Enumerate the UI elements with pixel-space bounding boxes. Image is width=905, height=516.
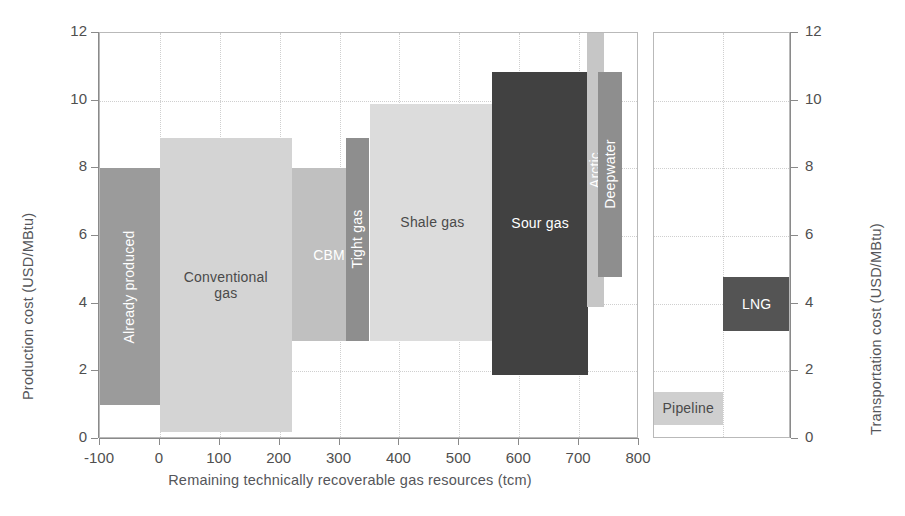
- y-axis-tick-label-left: 6: [53, 225, 87, 242]
- y-axis-tick-label-right: 2: [805, 360, 835, 377]
- gridline-horizontal: [654, 168, 789, 169]
- x-axis-title: Remaining technically recoverable gas re…: [0, 472, 700, 488]
- y-axis-tick-right: [791, 32, 798, 33]
- y-axis-tick-left: [91, 32, 98, 33]
- bar-label: Conventional gas: [184, 269, 268, 301]
- gridline-horizontal: [654, 371, 789, 372]
- y-axis-tick-label-right: 0: [805, 428, 835, 445]
- y-axis-tick-label-right: 10: [805, 90, 835, 107]
- y-axis-tick-label-left: 4: [53, 293, 87, 310]
- bar-already-produced[interactable]: Already produced: [100, 168, 160, 405]
- y-axis-tick-left: [91, 370, 98, 371]
- y-axis-tick-right: [791, 303, 798, 304]
- y-axis-tick-right: [791, 370, 798, 371]
- y-axis-tick-right: [791, 235, 798, 236]
- x-axis-tick-label: 800: [603, 449, 673, 466]
- bar-lng[interactable]: LNG: [723, 277, 791, 331]
- x-axis-tick: [279, 438, 280, 445]
- bar-label: Already produced: [122, 230, 138, 343]
- x-axis-tick: [398, 438, 399, 445]
- y-axis-tick-label-left: 0: [53, 428, 87, 445]
- y-axis-tick-label-right: 6: [805, 225, 835, 242]
- bar-label: Tight gas: [349, 210, 365, 269]
- y-axis-tick-label-right: 8: [805, 157, 835, 174]
- gridline-horizontal: [654, 236, 789, 237]
- x-axis-tick: [458, 438, 459, 445]
- production-cost-panel: Already producedConventional gasCBMTight…: [99, 32, 638, 438]
- x-axis-tick: [219, 438, 220, 445]
- transportation-cost-panel: PipelineLNG: [653, 32, 790, 438]
- y-axis-title-right: Transportation cost (USD/MBtu): [868, 223, 884, 435]
- y-axis-tick-left: [91, 167, 98, 168]
- bar-tight-gas[interactable]: Tight gas: [346, 138, 370, 341]
- bar-shale-gas[interactable]: Shale gas: [370, 104, 496, 341]
- chart-root: Production cost (USD/MBtu) Transportatio…: [0, 0, 905, 516]
- y-axis-tick-left: [91, 235, 98, 236]
- bar-sour-gas[interactable]: Sour gas: [492, 72, 588, 375]
- gridline-vertical: [723, 33, 724, 437]
- y-axis-tick-label-right: 4: [805, 293, 835, 310]
- bar-pipeline[interactable]: Pipeline: [654, 392, 723, 426]
- y-axis-tick-label-left: 12: [53, 22, 87, 39]
- gridline-horizontal: [654, 101, 789, 102]
- x-axis-tick: [578, 438, 579, 445]
- bar-deepwater[interactable]: Deepwater: [598, 72, 623, 277]
- bar-label: CBM: [313, 247, 345, 263]
- x-axis-tick: [159, 438, 160, 445]
- y-axis-tick-left: [91, 438, 98, 439]
- y-axis-tick-label-left: 10: [53, 90, 87, 107]
- x-axis-tick: [518, 438, 519, 445]
- x-axis-tick: [339, 438, 340, 445]
- y-axis-tick-left: [91, 303, 98, 304]
- bar-label: LNG: [742, 296, 771, 312]
- bar-label: Deepwater: [602, 139, 618, 209]
- y-axis-tick-label-right: 12: [805, 22, 835, 39]
- bar-label: Pipeline: [663, 400, 714, 416]
- bar-conventional-gas[interactable]: Conventional gas: [160, 138, 292, 432]
- x-axis-tick: [638, 438, 639, 445]
- y-axis-line-left: [98, 32, 99, 438]
- y-axis-tick-label-left: 2: [53, 360, 87, 377]
- bar-label: Shale gas: [400, 214, 464, 230]
- x-axis-line: [99, 438, 638, 439]
- y-axis-title-left: Production cost (USD/MBtu): [20, 213, 36, 400]
- y-axis-tick-label-left: 8: [53, 157, 87, 174]
- y-axis-tick-right: [791, 167, 798, 168]
- bar-label: Sour gas: [511, 215, 569, 231]
- y-axis-tick-right: [791, 100, 798, 101]
- y-axis-tick-left: [91, 100, 98, 101]
- y-axis-tick-right: [791, 438, 798, 439]
- x-axis-tick: [99, 438, 100, 445]
